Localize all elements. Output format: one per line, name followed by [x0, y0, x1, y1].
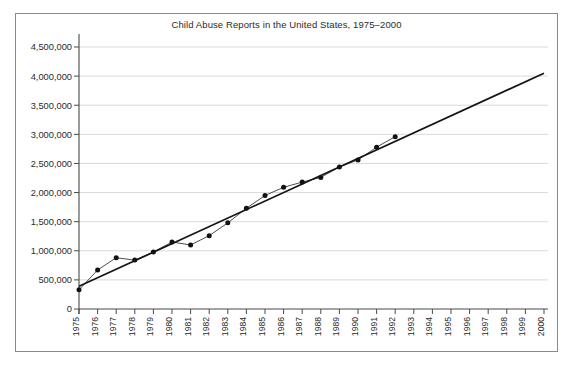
x-axis-tick-label: 1980: [164, 317, 174, 336]
data-point: [337, 164, 342, 169]
x-axis-tick-label: 1981: [183, 317, 193, 336]
data-point: [318, 175, 323, 180]
y-axis-tick-label: 3,500,000: [31, 101, 72, 111]
x-axis-tick-label: 1999: [517, 317, 527, 336]
x-axis-tick-label: 1993: [406, 317, 416, 336]
x-axis-tick-label: 1988: [313, 317, 323, 336]
x-axis-tick-label: 1986: [276, 317, 286, 336]
data-point: [374, 145, 379, 150]
x-axis-tick-label: 1979: [145, 317, 155, 336]
data-point: [95, 267, 100, 272]
data-point: [244, 206, 249, 211]
chart-plot-area: 0500,0001,000,0001,500,0002,000,0002,500…: [16, 14, 559, 353]
x-axis-tick-label: 1997: [480, 317, 490, 336]
x-tick-marks-group: [79, 309, 544, 314]
y-axis-tick-label: 2,500,000: [31, 159, 72, 169]
y-axis-tick-label: 0: [67, 304, 72, 314]
x-axis-tick-label: 1975: [71, 317, 81, 336]
y-axis-tick-label: 4,000,000: [31, 72, 72, 82]
data-point: [225, 220, 230, 225]
y-axis-tick-label: 1,000,000: [31, 246, 72, 256]
chart-frame: Child Abuse Reports in the United States…: [15, 13, 558, 352]
x-axis-tick-label: 1998: [499, 317, 509, 336]
x-axis-tick-label: 1978: [127, 317, 137, 336]
x-axis-tick-label: 1983: [220, 317, 230, 336]
x-axis-tick-label: 1995: [443, 317, 453, 336]
data-point: [281, 185, 286, 190]
y-tick-marks-group: [74, 47, 79, 309]
x-axis-tick-label: 1982: [201, 317, 211, 336]
y-axis-tick-label: 3,000,000: [31, 130, 72, 140]
x-axis-tick-label: 1985: [257, 317, 267, 336]
y-axis-tick-label: 1,500,000: [31, 217, 72, 227]
x-axis-tick-labels: 1975197619771978197919801981198219831984…: [71, 317, 546, 336]
x-axis-tick-label: 1989: [331, 317, 341, 336]
data-point: [77, 287, 82, 292]
x-axis-tick-label: 1991: [369, 317, 379, 336]
data-point: [207, 233, 212, 238]
y-axis-tick-label: 4,500,000: [31, 42, 72, 52]
gridlines-group: [79, 47, 548, 280]
x-axis-tick-label: 1996: [462, 317, 472, 336]
data-point: [356, 157, 361, 162]
x-axis-tick-label: 1977: [108, 317, 118, 336]
data-point: [393, 134, 398, 139]
x-axis-tick-label: 2000: [536, 317, 546, 336]
y-axis-tick-labels: 0500,0001,000,0001,500,0002,000,0002,500…: [31, 42, 72, 314]
y-axis-tick-label: 500,000: [38, 275, 72, 285]
x-axis-tick-label: 1990: [350, 317, 360, 336]
y-axis-tick-label: 2,000,000: [31, 188, 72, 198]
x-axis-tick-label: 1984: [238, 317, 248, 336]
data-point: [132, 258, 137, 263]
data-point: [300, 180, 305, 185]
x-axis-tick-label: 1994: [424, 317, 434, 336]
data-point: [170, 240, 175, 245]
x-axis-tick-label: 1992: [387, 317, 397, 336]
data-point: [263, 193, 268, 198]
data-point: [151, 249, 156, 254]
data-point: [188, 242, 193, 247]
x-axis-tick-label: 1987: [294, 317, 304, 336]
x-axis-tick-label: 1976: [90, 317, 100, 336]
data-point: [114, 255, 119, 260]
